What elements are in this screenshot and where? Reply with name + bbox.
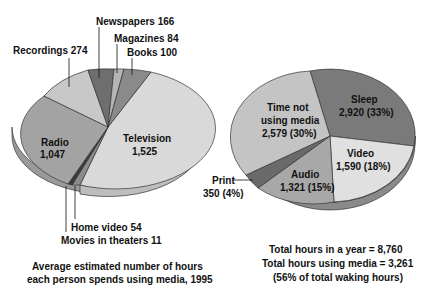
media-charts: Newspapers 166 Magazines 84 Recordings 2… [0,0,430,299]
label-sleep: Sleep [351,94,378,105]
label-not-using-value: 2,579 (30%) [262,128,316,139]
label-video: Video [347,148,374,159]
annotation-media-hours: Total hours using media = 3,261 [262,258,414,269]
label-sleep-value: 2,920 (33%) [339,107,393,118]
label-print-value: 350 (4%) [203,188,244,199]
label-movies: Movies in theaters 11 [61,235,162,246]
label-magazines: Magazines 84 [114,33,179,44]
label-television-value: 1,525 [132,146,157,157]
left-title-line1: Average estimated number of hours [32,261,203,272]
label-recordings: Recordings 274 [13,45,88,56]
left-pie [12,69,216,197]
label-not-using-2: using media [261,115,320,126]
label-television: Television [123,133,171,144]
annotation-total-hours: Total hours in a year = 8,760 [269,244,403,255]
label-audio-value: 1,321 (15%) [280,182,334,193]
annotation-waking: (56% of total waking hours) [273,272,403,283]
label-print: Print [212,175,235,186]
label-radio: Radio [41,137,69,148]
label-radio-value: 1,047 [40,149,65,160]
label-home-video: Home video 54 [71,222,142,233]
label-video-value: 1,590 (18%) [336,161,390,172]
label-newspapers: Newspapers 166 [96,16,175,27]
label-books: Books 100 [127,47,177,58]
label-not-using-1: Time not [267,102,309,113]
label-audio: Audio [291,169,319,180]
left-title-line2: each person spends using media, 1995 [27,274,213,285]
